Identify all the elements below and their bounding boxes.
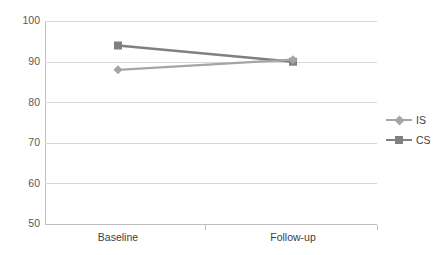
diamond-marker-icon — [395, 115, 405, 125]
line-chart: 100 90 80 70 60 50 Baseline Follo — [0, 0, 438, 255]
series-layer — [0, 0, 438, 255]
legend-entry-is[interactable]: IS — [386, 110, 438, 130]
legend-entry-cs[interactable]: CS — [386, 130, 438, 150]
series-cs-line — [118, 46, 293, 62]
legend-key-is — [386, 113, 412, 127]
legend-key-cs — [386, 133, 412, 147]
legend: IS CS — [386, 110, 438, 150]
legend-label-is: IS — [412, 114, 426, 126]
square-marker-icon — [395, 136, 403, 144]
x-tick-label-followup: Follow-up — [253, 231, 333, 243]
x-tick-label-baseline: Baseline — [78, 231, 158, 243]
series-cs-point-baseline — [114, 42, 122, 50]
series-is-point-baseline — [114, 65, 123, 74]
series-is — [114, 55, 298, 74]
legend-label-cs: CS — [412, 134, 431, 146]
series-is-line — [118, 60, 293, 70]
